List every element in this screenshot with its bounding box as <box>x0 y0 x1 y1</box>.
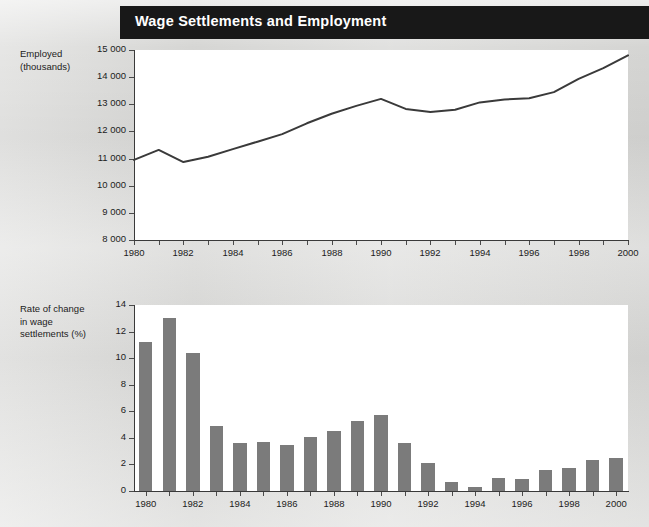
wage-x-tick <box>357 492 358 496</box>
bar <box>210 426 224 491</box>
bar <box>374 415 388 491</box>
wage-x-tick <box>522 492 523 496</box>
bar <box>539 470 553 491</box>
wage-x-tick <box>216 492 217 496</box>
wage-x-tick <box>428 492 429 496</box>
wage-x-tick <box>287 492 288 496</box>
bar <box>398 443 412 491</box>
wage-x-tick <box>240 492 241 496</box>
bar <box>163 318 177 491</box>
wage-x-tick <box>616 492 617 496</box>
wage-x-tick-label: 1986 <box>267 498 307 509</box>
wage-x-tick <box>452 492 453 496</box>
wage-x-tick <box>405 492 406 496</box>
wage-x-tick-label: 1990 <box>361 498 401 509</box>
wage-x-tick <box>546 492 547 496</box>
wage-x-tick-label: 1996 <box>502 498 542 509</box>
bar <box>257 442 271 491</box>
wage-y-tick-label: 2 <box>102 457 126 468</box>
axis-title-line: Rate of change <box>20 303 84 314</box>
bar <box>186 353 200 491</box>
wage-x-tick <box>193 492 194 496</box>
wage-y-axis <box>134 305 135 492</box>
wage-y-tick <box>129 305 134 306</box>
bar <box>468 487 482 491</box>
bar <box>586 460 600 491</box>
wage-x-tick-label: 1992 <box>408 498 448 509</box>
wage-y-tick <box>129 385 134 386</box>
bar <box>492 478 506 491</box>
wage-x-tick-label: 1994 <box>455 498 495 509</box>
wage-y-tick-label: 10 <box>102 351 126 362</box>
wage-y-tick <box>129 464 134 465</box>
bar <box>421 463 435 491</box>
wage-x-tick-label: 1980 <box>126 498 166 509</box>
wage-y-tick <box>129 332 134 333</box>
bar <box>515 479 529 491</box>
bar <box>304 437 318 492</box>
wage-x-tick <box>263 492 264 496</box>
wage-y-tick <box>129 491 134 492</box>
wage-x-tick <box>475 492 476 496</box>
wage-y-tick <box>129 411 134 412</box>
wage-x-tick-label: 2000 <box>596 498 636 509</box>
wage-y-tick-label: 12 <box>102 325 126 336</box>
wage-y-tick-label: 14 <box>102 298 126 309</box>
wage-y-tick-label: 4 <box>102 431 126 442</box>
axis-title-line: settlements (%) <box>20 328 86 339</box>
employment-line-path <box>134 55 628 162</box>
bar <box>280 445 294 492</box>
wage-x-tick <box>381 492 382 496</box>
wage-x-tick <box>146 492 147 496</box>
bar <box>609 458 623 491</box>
wage-y-tick <box>129 358 134 359</box>
bar <box>351 421 365 491</box>
wage-x-tick <box>569 492 570 496</box>
wage-y-tick <box>129 438 134 439</box>
wage-x-tick-label: 1982 <box>173 498 213 509</box>
wage-y-tick-label: 6 <box>102 404 126 415</box>
wage-x-tick-label: 1988 <box>314 498 354 509</box>
wage-x-tick-label: 1984 <box>220 498 260 509</box>
axis-title-line: in wage <box>20 316 53 327</box>
bar <box>233 443 247 491</box>
bar <box>327 431 341 491</box>
bar <box>562 468 576 491</box>
bar <box>139 342 153 491</box>
wage-x-tick-label: 1998 <box>549 498 589 509</box>
wage-x-tick <box>169 492 170 496</box>
wage-y-tick-label: 0 <box>102 484 126 495</box>
bar <box>445 482 459 491</box>
wage-x-tick <box>334 492 335 496</box>
wage-x-tick <box>310 492 311 496</box>
wage-y-axis-title: Rate of changein wagesettlements (%) <box>20 303 86 341</box>
wage-y-tick-label: 8 <box>102 378 126 389</box>
wage-x-tick <box>499 492 500 496</box>
wage-x-tick <box>593 492 594 496</box>
